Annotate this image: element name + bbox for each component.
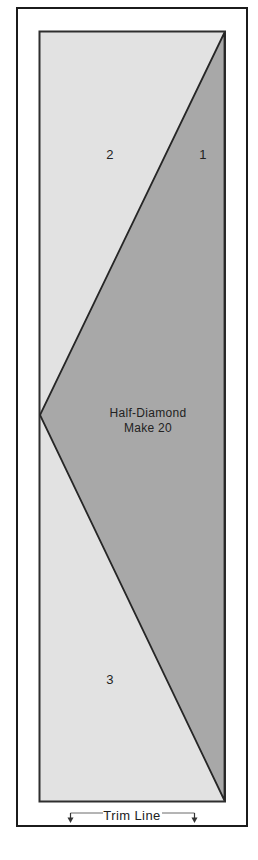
piece-label-2: 2 [106,147,114,162]
center-label-line1: Half-Diamond [110,406,187,420]
half-diamond-template-diagram: 2 1 3 Half-Diamond Make 20 Trim Line [0,0,258,860]
center-label-line2: Make 20 [124,421,172,435]
trim-line-label: Trim Line [103,808,160,823]
trim-line-left-arrow [68,813,104,823]
down-arrowhead-icon [68,818,74,824]
down-arrowhead-icon [192,818,198,824]
pattern-page: 2 1 3 Half-Diamond Make 20 Trim Line [0,0,258,860]
piece-label-1: 1 [199,147,207,162]
piece-label-3: 3 [106,672,114,687]
trim-line-right-arrow [162,813,198,823]
